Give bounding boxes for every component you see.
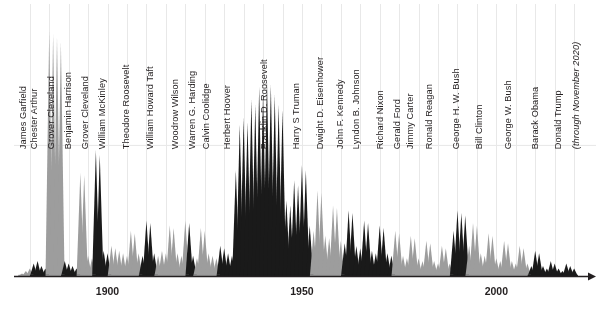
chart-figure: James GarfieldChester ArthurGrover Cleve… [0,0,610,311]
presidential-area-chart [0,0,610,311]
